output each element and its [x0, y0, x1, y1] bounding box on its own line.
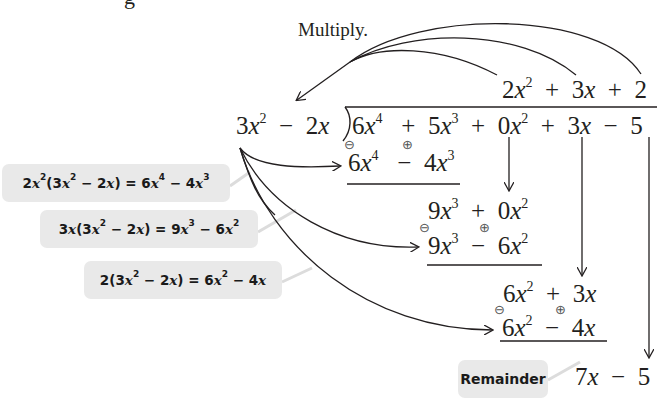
divisor: 3x2 − 2x	[236, 113, 329, 138]
cropped-text-fragment: g	[124, 0, 135, 8]
polynomial-long-division-diagram: g Multiply. 2x2 + 3x + 2 3x2 − 2x 6x4 + …	[0, 0, 662, 406]
partial-remainder-2: 6x2 + 3x	[503, 281, 596, 306]
annotation-multiply-2x2: 2x2(3x2 − 2x) = 6x4 − 4x3	[2, 164, 230, 202]
remainder-label: Remainder	[458, 360, 548, 398]
annotation-multiply-2: 2(3x2 − 2x) = 6x2 − 4x	[84, 261, 282, 299]
annotation-multiply-3x: 3x(3x2 − 2x) = 9x3 − 6x2	[40, 210, 258, 248]
product-row-1: 6x4 − 4x3	[348, 150, 455, 175]
multiply-caption: Multiply.	[298, 20, 368, 39]
final-remainder: 7x − 5	[575, 364, 650, 389]
dividend: 6x4 + 5x3 + 0x2 + 3x − 5	[352, 113, 643, 138]
product-row-2: 9x3 − 6x2	[428, 233, 528, 258]
quotient: 2x2 + 3x + 2	[502, 77, 647, 102]
arrows-and-rules	[0, 0, 662, 406]
product-row-3: 6x2 − 4x	[502, 315, 595, 340]
